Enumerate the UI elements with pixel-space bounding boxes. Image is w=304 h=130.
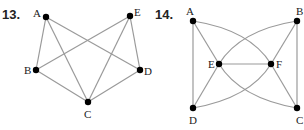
vertex-f	[268, 61, 274, 67]
vertex-d	[190, 105, 196, 111]
label-d: D	[144, 65, 152, 77]
graph-13-vertices	[33, 13, 143, 105]
edge-e-d	[130, 16, 140, 70]
label-b: B	[24, 64, 31, 76]
vertex-e	[127, 13, 133, 19]
graph-13-edges	[36, 16, 140, 102]
graph-13: 13. A E B D C	[2, 6, 152, 120]
vertex-b	[294, 18, 300, 24]
edge-b-e-curved	[219, 21, 297, 64]
label-e: E	[208, 58, 215, 70]
graph-14-number: 14.	[155, 7, 173, 22]
vertex-e	[216, 61, 222, 67]
vertex-c	[85, 99, 91, 105]
edge-f-c	[271, 64, 297, 108]
vertex-c	[294, 105, 300, 111]
vertex-a	[190, 18, 196, 24]
edge-e-d	[193, 64, 219, 108]
label-e: E	[134, 6, 141, 18]
vertex-b	[33, 67, 39, 73]
edge-b-f	[271, 21, 297, 64]
graph-figures: 13. A E B D C 14.	[0, 0, 304, 130]
edge-a-f-curved	[193, 21, 271, 64]
edge-d-f-curved	[193, 64, 271, 108]
label-b: B	[296, 5, 303, 17]
edge-e-c-curved	[219, 64, 297, 108]
vertex-a	[43, 14, 49, 20]
label-c: C	[296, 114, 303, 126]
label-a: A	[186, 5, 194, 17]
label-d: D	[189, 114, 197, 126]
label-a: A	[33, 7, 41, 19]
vertex-d	[137, 67, 143, 73]
label-f: F	[276, 58, 282, 70]
graph-14: 14. A B E F D C	[155, 5, 303, 126]
edge-a-e	[193, 21, 219, 64]
graph-13-number: 13.	[2, 7, 20, 22]
edge-a-b	[36, 17, 46, 70]
label-c: C	[84, 108, 91, 120]
